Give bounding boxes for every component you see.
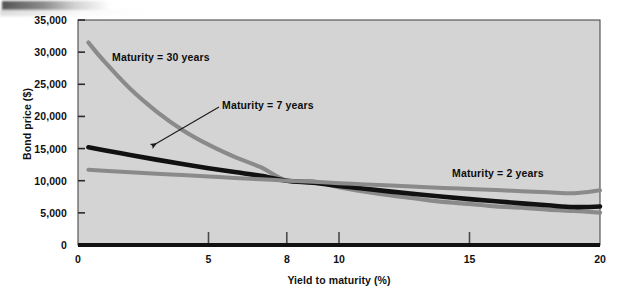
y-tick-label-5000: 5,000 [5, 208, 67, 218]
series-label-2-years: Maturity = 2 years [452, 167, 544, 179]
x-tick-label-10: 10 [322, 254, 356, 264]
x-tick-label-15: 15 [453, 254, 487, 264]
y-tick-label-10000: 10,000 [5, 176, 67, 186]
y-tick-label-30000: 30,000 [5, 47, 67, 57]
y-tick-label-20000: 20,000 [5, 111, 67, 121]
y-tick-label-0: 0 [5, 240, 67, 250]
chart-figure: 35,000 30,000 25,000 20,000 15,000 10,00… [0, 0, 620, 297]
x-axis-title: Yield to maturity (%) [78, 274, 600, 286]
series-label-30-years: Maturity = 30 years [112, 51, 210, 63]
x-tick-label-5: 5 [192, 254, 226, 264]
series-label-7-years: Maturity = 7 years [222, 99, 314, 111]
plot-canvas [0, 0, 620, 297]
y-tick-label-25000: 25,000 [5, 79, 67, 89]
y-axis-title: Bond price ($) [21, 69, 33, 179]
x-tick-label-0: 0 [61, 254, 95, 264]
y-tick-label-35000: 35,000 [5, 15, 67, 25]
x-tick-label-8: 8 [270, 254, 304, 264]
y-tick-label-15000: 15,000 [5, 144, 67, 154]
x-tick-label-20: 20 [583, 254, 617, 264]
